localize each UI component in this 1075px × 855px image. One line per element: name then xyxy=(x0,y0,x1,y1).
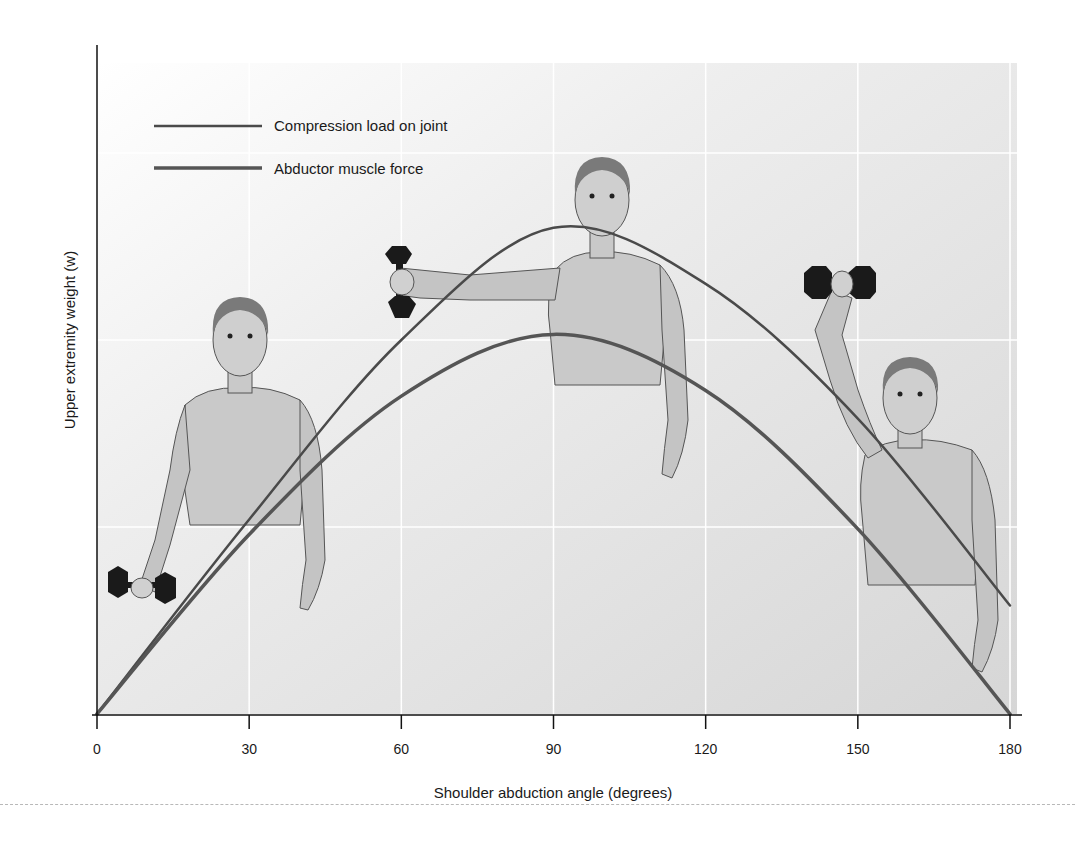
x-axis-title: Shoulder abduction angle (degrees) xyxy=(434,784,673,801)
chart-container: 0306090120150180 Shoulder abduction angl… xyxy=(0,0,1075,855)
y-axis-title: Upper extremity weight (w) xyxy=(61,251,78,429)
x-tick-label: 60 xyxy=(394,741,410,757)
x-tick-label: 0 xyxy=(93,741,101,757)
x-tick-label: 120 xyxy=(694,741,718,757)
line-chart: 0306090120150180 Shoulder abduction angl… xyxy=(0,0,1075,855)
legend-label-compression: Compression load on joint xyxy=(274,117,448,134)
dashed-separator xyxy=(0,804,1075,805)
legend-label-abductor: Abductor muscle force xyxy=(274,160,423,177)
x-tick-label: 90 xyxy=(546,741,562,757)
x-tick-label: 180 xyxy=(998,741,1022,757)
x-axis-ticks: 0306090120150180 xyxy=(93,715,1022,757)
x-tick-label: 30 xyxy=(241,741,257,757)
x-tick-label: 150 xyxy=(846,741,870,757)
